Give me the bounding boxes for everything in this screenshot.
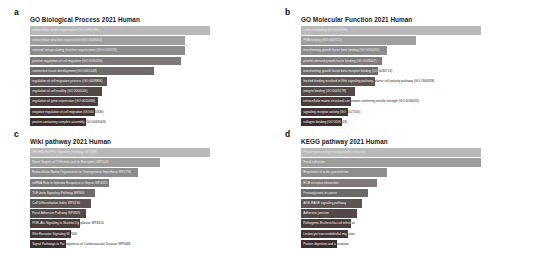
panel-b-title: GO Molecular Function 2021 Human bbox=[301, 16, 412, 24]
bar-label: PI3K-Akt Signaling in Skeletal Dysplasia… bbox=[32, 219, 104, 228]
bar-label: Novel Targets of TGF-beta and its Recept… bbox=[32, 158, 108, 167]
bar-row: Leukocyte transendothelial migration bbox=[301, 230, 481, 239]
bar-label: transforming growth factor beta binding … bbox=[303, 46, 379, 55]
bar-row: Cell Differentiation Index WP4336 bbox=[30, 199, 210, 208]
bar-row: Protein processing in endoplasmic reticu… bbox=[301, 148, 481, 157]
bar-row: negative regulation of cell migration (G… bbox=[30, 108, 210, 117]
bar-label: AGE-RAGE signaling pathway bbox=[303, 199, 346, 208]
bar-row: signaling receptor activity (GO:0017154) bbox=[301, 108, 481, 117]
bar-label: regulation of cell motility (GO:2000145) bbox=[32, 87, 87, 96]
bar-chart-d: Protein processing in endoplasmic reticu… bbox=[301, 148, 481, 248]
panel-d: d KEGG pathway 2021 Human Protein proces… bbox=[285, 130, 535, 250]
panel-a-letter: a bbox=[14, 8, 19, 17]
bar-label: TGF-beta Signaling Pathway WP366 bbox=[32, 189, 84, 198]
bar-row: extracellular structure organization (GO… bbox=[30, 36, 210, 45]
bar-row: TGF-beta Signaling Pathway WP366 bbox=[30, 189, 210, 198]
bar-chart-a: extracellular matrix organization (GO:00… bbox=[30, 26, 210, 126]
panel-a-title: GO Biological Process 2021 Human bbox=[30, 16, 140, 24]
enrichment-figure: a GO Biological Process 2021 Human extra… bbox=[0, 0, 552, 265]
bar-label: miRNA Role in Immune Response in Sepsis … bbox=[32, 179, 107, 188]
bar-row: Regulation of actin cytoskeleton bbox=[301, 168, 481, 177]
bar-row: protein-containing complex assembly (GO:… bbox=[30, 118, 210, 127]
bar-label: regulation of cell migration process (GO… bbox=[32, 77, 102, 86]
bar-row: external encapsulating structure organiz… bbox=[30, 46, 210, 55]
bar-row: Protein digestion and absorption bbox=[301, 240, 481, 249]
bar-row: transforming growth factor beta receptor… bbox=[301, 67, 481, 76]
bar-row: Signal Pathways in Pathogenesis of Cardi… bbox=[30, 240, 210, 249]
bar-label: regulation of gene expression (GO:001046… bbox=[32, 97, 95, 106]
bar-label: transforming growth factor beta receptor… bbox=[303, 67, 392, 76]
bar-row: regulation of cell migration process (GO… bbox=[30, 77, 210, 86]
bar-row: Novel Targets of TGF-beta and its Recept… bbox=[30, 158, 210, 167]
panel-b: b GO Molecular Function 2021 Human cadhe… bbox=[285, 8, 535, 128]
bar bbox=[301, 158, 481, 167]
bar-row: Pathogenic Escherichia coli infection bbox=[301, 219, 481, 228]
bar-row: Adherens junction bbox=[301, 209, 481, 218]
bar-label: negative regulation of cell migration (G… bbox=[32, 108, 103, 117]
bar-label: extracellular structure organization (GO… bbox=[32, 36, 102, 45]
panel-c-title: Wiki pathway 2021 Human bbox=[30, 138, 111, 146]
bar-label: Pathogenic Escherichia coli infection bbox=[303, 219, 355, 228]
bar-row: collagen binding (GO:0005518) bbox=[301, 118, 481, 127]
bar-label: Adherens junction bbox=[303, 209, 328, 218]
bar-label: positive regulation of cell migration (G… bbox=[32, 57, 102, 66]
bar-row: PI3K-Akt Signaling in Skeletal Dysplasia… bbox=[30, 219, 210, 228]
bar-label: extracellular matrix organization (GO:00… bbox=[32, 26, 98, 35]
bar-label: Protein processing in endoplasmic reticu… bbox=[303, 148, 365, 157]
bar-label: RNA binding (GO:0003723) bbox=[303, 36, 342, 45]
bar-chart-c: VEGFA-VEGFR2 Signaling Pathway WP3888Nov… bbox=[30, 148, 210, 248]
panel-c: c Wiki pathway 2021 Human VEGFA-VEGFR2 S… bbox=[14, 130, 264, 250]
bar-label: frizzled binding involved in Wnt signali… bbox=[303, 77, 434, 86]
bar-chart-b: cadherin binding (GO:0045296)RNA binding… bbox=[301, 26, 481, 126]
bar-row: regulation of gene expression (GO:001046… bbox=[30, 97, 210, 106]
panel-d-letter: d bbox=[285, 130, 290, 139]
bar-row: miRNA Role in Immune Response in Sepsis … bbox=[30, 179, 210, 188]
bar-row: connective tissue development (GO:006144… bbox=[30, 67, 210, 76]
bar-label: Wnt Receptor Signaling WP560 bbox=[32, 230, 77, 239]
panel-c-letter: c bbox=[14, 130, 19, 139]
bar-row: extracellular matrix organization (GO:00… bbox=[30, 26, 210, 35]
bar-label: collagen binding (GO:0005518) bbox=[303, 118, 347, 127]
bar-label: Signal Pathways in Pathogenesis of Cardi… bbox=[32, 240, 130, 249]
bar-row: Proteoglycans in cancer bbox=[301, 189, 481, 198]
bar-row: RNA binding (GO:0003723) bbox=[301, 36, 481, 45]
bar-row: extracellular matrix structural constitu… bbox=[301, 97, 481, 106]
bar-row: ECM-receptor interaction bbox=[301, 179, 481, 188]
bar-label: Protein digestion and absorption bbox=[303, 240, 349, 249]
bar-row: platelet-derived growth factor binding (… bbox=[301, 57, 481, 66]
bar-label: Extracellular Matrix Organization in Ost… bbox=[32, 168, 131, 177]
bar-label: protein-containing complex assembly (GO:… bbox=[32, 118, 106, 127]
bar-label: connective tissue development (GO:006144… bbox=[32, 67, 97, 76]
bar-row: frizzled binding involved in Wnt signali… bbox=[301, 77, 481, 86]
bar-row: regulation of cell motility (GO:2000145) bbox=[30, 87, 210, 96]
bar-label: Cell Differentiation Index WP4336 bbox=[32, 199, 80, 208]
bar-row: VEGFA-VEGFR2 Signaling Pathway WP3888 bbox=[30, 148, 210, 157]
bar-label: VEGFA-VEGFR2 Signaling Pathway WP3888 bbox=[32, 148, 96, 157]
bar-row: Focal adhesion bbox=[301, 158, 481, 167]
bar-row: transforming growth factor beta binding … bbox=[301, 46, 481, 55]
bar-label: Focal adhesion bbox=[303, 158, 325, 167]
bar-label: extracellular matrix structural constitu… bbox=[303, 97, 419, 106]
bar-row: Wnt Receptor Signaling WP560 bbox=[30, 230, 210, 239]
bar-row: Focal Adhesion Pathway WP4925 bbox=[30, 209, 210, 218]
bar-label: Proteoglycans in cancer bbox=[303, 189, 337, 198]
bar-row: Extracellular Matrix Organization in Ost… bbox=[30, 168, 210, 177]
panel-b-letter: b bbox=[285, 8, 290, 17]
bar-label: Leukocyte transendothelial migration bbox=[303, 230, 355, 239]
bar-row: integrin binding (GO:0005178) bbox=[301, 87, 481, 96]
bar-label: Focal Adhesion Pathway WP4925 bbox=[32, 209, 80, 218]
bar-row: positive regulation of cell migration (G… bbox=[30, 57, 210, 66]
bar-label: integrin binding (GO:0005178) bbox=[303, 87, 346, 96]
bar-label: platelet-derived growth factor binding (… bbox=[303, 57, 376, 66]
bar-row: AGE-RAGE signaling pathway bbox=[301, 199, 481, 208]
bar-row: cadherin binding (GO:0045296) bbox=[301, 26, 481, 35]
bar-label: cadherin binding (GO:0045296) bbox=[303, 26, 348, 35]
bar-label: signaling receptor activity (GO:0017154) bbox=[303, 108, 360, 117]
bar-label: ECM-receptor interaction bbox=[303, 179, 338, 188]
bar-label: Regulation of actin cytoskeleton bbox=[303, 168, 348, 177]
panel-d-title: KEGG pathway 2021 Human bbox=[301, 138, 388, 146]
panel-a: a GO Biological Process 2021 Human extra… bbox=[14, 8, 264, 128]
bar-label: external encapsulating structure organiz… bbox=[32, 46, 117, 55]
